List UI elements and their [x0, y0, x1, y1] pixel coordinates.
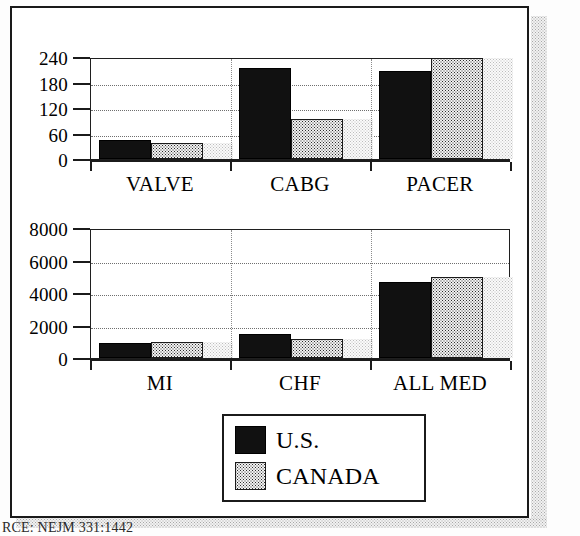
bar-us-valve [99, 140, 151, 159]
bar-canada-cabg [291, 119, 343, 159]
bar-scan-ghost [203, 143, 233, 159]
bar-scan-ghost [343, 339, 373, 359]
x-tick-mark [510, 162, 512, 171]
plot-area-procedures [90, 58, 510, 160]
x-axis-label-cabg: CABG [270, 174, 330, 195]
y-tick-label: 2000 [29, 317, 68, 336]
x-axis-label-valve: VALVE [126, 174, 194, 195]
y-tick-label: 6000 [29, 252, 68, 271]
bar-canada-mi [151, 342, 203, 358]
legend-label-canada: CANADA [276, 464, 380, 488]
x-tick-mark [90, 361, 92, 370]
y-tick-mark [73, 134, 90, 136]
x-axis-label-chf: CHF [279, 373, 321, 394]
page-shadow-right [531, 16, 547, 521]
y-tick-mark [73, 159, 90, 161]
bar-us-allmed [379, 282, 431, 358]
y-tick-mark [73, 358, 90, 360]
y-tick-mark [73, 326, 90, 328]
y-tick-mark [73, 261, 90, 263]
bar-us-pacer [379, 71, 431, 159]
bar-scan-ghost [483, 277, 513, 358]
bar-scan-ghost [483, 58, 513, 159]
y-tick-label: 120 [39, 100, 68, 119]
y-tick-mark [73, 83, 90, 85]
x-axis-label-pacer: PACER [406, 174, 473, 195]
bar-canada-valve [151, 143, 203, 159]
bar-us-mi [99, 343, 151, 358]
group-divider [371, 59, 372, 159]
scanned-figure-page: 060120180240 VALVECABGPACER 020004000600… [0, 0, 580, 536]
y-tick-mark [73, 293, 90, 295]
bar-canada-allmed [431, 277, 483, 358]
legend-swatch-canada-icon [235, 462, 266, 490]
gridline [91, 263, 509, 264]
legend-swatch-us-icon [235, 426, 266, 454]
bar-scan-ghost [203, 342, 233, 358]
bar-us-cabg [239, 68, 291, 159]
figure-caption: RCE: NEJM 331:1442 [2, 520, 302, 535]
bar-canada-pacer [431, 58, 483, 159]
y-tick-mark [73, 228, 90, 230]
plot-area-medical [90, 229, 510, 359]
y-tick-label: 60 [49, 125, 68, 144]
bar-us-chf [239, 334, 291, 358]
x-axis-label-mi: MI [147, 373, 173, 394]
x-tick-mark [90, 162, 92, 171]
y-tick-mark [73, 108, 90, 110]
group-divider [371, 230, 372, 358]
group-divider [231, 59, 232, 159]
x-tick-mark [230, 361, 232, 370]
chart-procedures: 060120180240 VALVECABGPACER [12, 8, 529, 208]
legend-item-canada: CANADA [235, 462, 380, 490]
x-axis-line-medical [90, 359, 510, 361]
chart-legend: U.S. CANADA [222, 414, 426, 502]
x-axis-line-procedures [90, 160, 510, 162]
legend-item-us: U.S. [235, 426, 319, 454]
chart-medical-conditions: 02000400060008000 MICHFALL MED [12, 213, 529, 398]
bar-scan-ghost [343, 119, 373, 159]
y-tick-label: 180 [39, 74, 68, 93]
y-tick-label: 240 [39, 49, 68, 68]
x-axis-label-allmed: ALL MED [393, 373, 487, 394]
figure-border: 060120180240 VALVECABGPACER 020004000600… [10, 6, 529, 518]
bar-canada-chf [291, 339, 343, 359]
group-divider [231, 230, 232, 358]
y-tick-label: 4000 [29, 285, 68, 304]
x-tick-mark [510, 361, 512, 370]
x-tick-mark [370, 162, 372, 171]
x-tick-mark [230, 162, 232, 171]
y-tick-label: 0 [58, 350, 68, 369]
y-tick-mark [73, 57, 90, 59]
y-tick-label: 8000 [29, 220, 68, 239]
legend-label-us: U.S. [276, 428, 319, 452]
x-tick-mark [370, 361, 372, 370]
y-tick-label: 0 [58, 151, 68, 170]
